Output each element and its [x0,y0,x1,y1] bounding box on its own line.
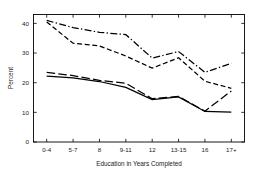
y-tick-label: 30 [22,49,29,56]
x-tick-label: 17+ [226,146,237,153]
x-axis-ticks [47,139,232,142]
x-tick-label: 0-4 [42,146,52,153]
y-axis-ticks [34,23,37,142]
x-tick-label: 8 [98,146,102,153]
series-line-dash-dot [47,20,232,72]
y-tick-label: 20 [22,79,29,86]
series-line-solid [47,76,232,112]
chart-figure: 010203040 0-45-789-111213-151617+ Percen… [0,0,253,176]
right-axis-ticks [241,23,244,142]
x-tick-label: 13-15 [171,146,187,153]
top-axis-ticks [47,15,232,18]
series-group [47,20,232,112]
y-axis-tick-labels: 010203040 [22,20,29,146]
x-axis-title: Education in Years Completed [96,160,182,168]
x-tick-label: 9-11 [120,146,132,153]
x-tick-label: 12 [149,146,156,153]
y-tick-label: 0 [26,138,30,145]
y-axis-title: Percent [7,67,14,89]
x-tick-label: 5-7 [69,146,79,153]
y-tick-label: 10 [22,109,29,116]
x-axis-tick-labels: 0-45-789-111213-151617+ [42,146,237,153]
plot-frame [34,15,245,143]
line-chart-canvas: 010203040 0-45-789-111213-151617+ Percen… [0,0,253,176]
y-tick-label: 40 [22,20,29,27]
x-tick-label: 16 [201,146,208,153]
